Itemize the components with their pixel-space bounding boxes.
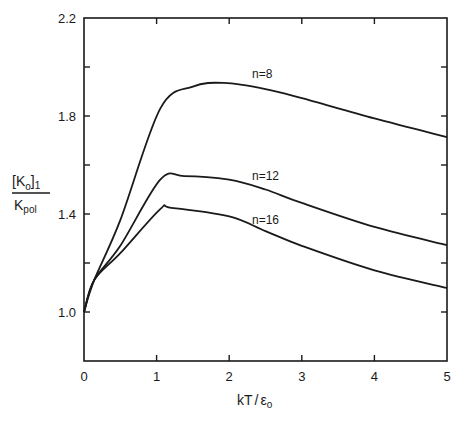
x-tick-label: 2: [226, 369, 233, 384]
y-tick-label: 1.8: [58, 109, 76, 124]
curve-n-8: [84, 83, 447, 312]
y-axis-title: [Ko]1 Kpol: [12, 173, 50, 215]
x-tick-label: 3: [298, 369, 305, 384]
curve-label: n=12: [252, 169, 279, 183]
y-tick-label: 1.0: [58, 305, 76, 320]
x-tick-label: 0: [80, 369, 87, 384]
svg-text:Kpol: Kpol: [14, 197, 37, 215]
curve-label: n=8: [252, 67, 273, 81]
x-tick-label: 5: [443, 369, 450, 384]
curve-n-12: [84, 173, 447, 312]
x-tick-label: 4: [371, 369, 378, 384]
y-tick-label: 2.2: [58, 11, 76, 26]
x-axis-title: kT/εo: [237, 392, 273, 410]
data-curves: [84, 83, 447, 312]
svg-text:[Ko]1: [Ko]1: [12, 173, 41, 192]
y-tick-label: 1.4: [58, 207, 76, 222]
line-chart: 0123451.01.41.82.2 n=8n=12n=16 [Ko]1 Kpo…: [0, 0, 461, 422]
curve-label: n=16: [252, 213, 279, 227]
x-tick-label: 1: [153, 369, 160, 384]
